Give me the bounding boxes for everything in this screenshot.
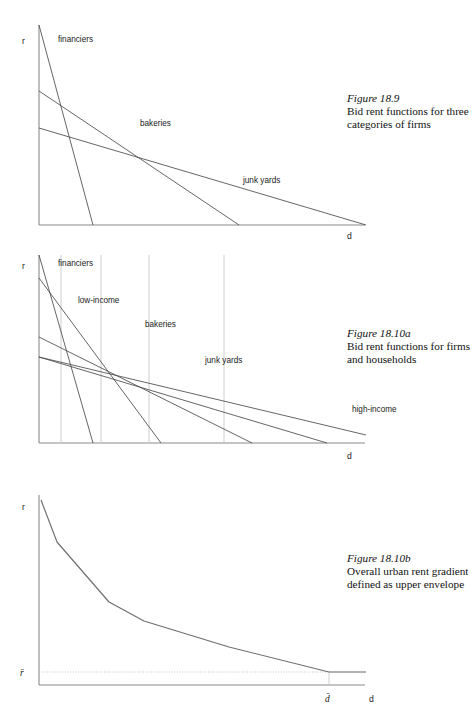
curve-financiers [39,25,93,225]
x-tick-label-dbar: d̄ [325,693,330,704]
caption-title: Figure 18.10b [347,552,475,565]
label-financiers: financiers [58,35,93,44]
figure-18-9-caption: Figure 18.9 Bid rent functions for three… [347,92,475,132]
figure-18-10a-panel: r d financiers low-income bakeries junk … [0,245,475,480]
curve-high-income [39,357,366,435]
y-axis-label: r [22,502,25,512]
figure-18-9-panel: r d financiers bakeries junk yards Figur… [0,0,475,240]
caption-title: Figure 18.9 [347,92,475,105]
label-high-income: high-income [352,405,397,414]
x-axis-label: d [347,451,352,461]
caption-body: Overall urban rent gradient defined as u… [347,565,475,591]
figure-18-10b-panel: r r̄ d̄ d Figure 18.10b Overall urban re… [0,480,475,712]
label-bakeries: bakeries [140,119,171,128]
curve-junk-yards [39,357,327,443]
caption-body: Bid rent functions for three categories … [347,105,475,131]
caption-title: Figure 18.10a [347,327,475,340]
label-low-income: low-income [78,296,120,305]
label-junk-yards: junk yards [204,356,242,365]
x-axis-label: d [347,231,352,240]
label-bakeries: bakeries [145,320,176,329]
label-financiers: financiers [58,259,93,268]
curve-bakeries [39,337,252,443]
curve-financiers [39,255,93,443]
figure-18-10a-caption: Figure 18.10a Bid rent functions for fir… [347,327,475,367]
curve-junk-yards [39,128,366,225]
label-junk-yards: junk yards [242,176,280,185]
y-tick-label-rbar: r̄ [20,668,25,678]
y-axis-label: r [22,36,25,46]
curve-upper-envelope [41,500,366,672]
figure-18-10b-caption: Figure 18.10b Overall urban rent gradien… [347,552,475,592]
x-axis-label: d [369,694,374,704]
caption-body: Bid rent functions for firms and househo… [347,340,475,366]
figure-18-10b-chart: r r̄ d̄ d [0,480,475,712]
y-axis-label: r [22,261,25,271]
